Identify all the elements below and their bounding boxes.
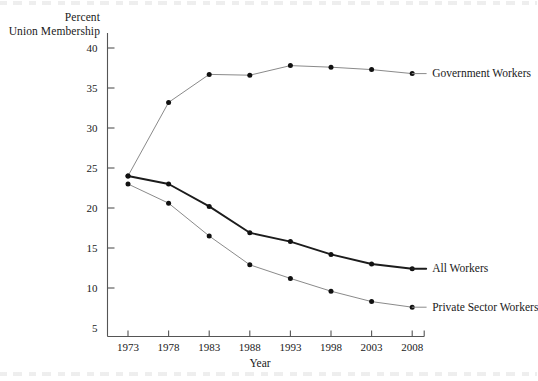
data-point: [369, 262, 374, 267]
x-axis-label: Year: [107, 357, 413, 369]
y-axis-label-line-2: Union Membership: [0, 25, 100, 39]
x-axis-ticks: [128, 331, 424, 337]
series-all-workers: [126, 174, 415, 272]
data-point: [166, 100, 171, 105]
cropped-text-line-below: [0, 372, 537, 376]
series-private-sector-workers: [126, 182, 415, 310]
series-line: [128, 66, 412, 176]
series-label-private-sector-workers: Private Sector Workers: [432, 301, 538, 313]
data-point: [247, 262, 252, 267]
data-point: [329, 65, 334, 70]
y-axis-tick-label: 20: [70, 203, 98, 214]
data-point: [369, 67, 374, 72]
data-point: [288, 63, 293, 68]
series-line: [128, 176, 412, 269]
data-point: [247, 230, 252, 235]
data-point: [166, 201, 171, 206]
y-axis-tick-label: 40: [70, 43, 98, 54]
data-point: [126, 174, 131, 179]
data-point: [329, 252, 334, 257]
series-label-all-workers: All Workers: [432, 262, 488, 274]
data-point: [288, 239, 293, 244]
data-point: [329, 289, 334, 294]
y-axis-tick-label: 10: [70, 283, 98, 294]
y-axis-label: Percent Union Membership: [0, 11, 100, 38]
cropped-text-line-above: [0, 1, 537, 5]
data-point: [207, 234, 212, 239]
data-point: [126, 182, 131, 187]
data-point: [247, 73, 252, 78]
y-axis-tick-label: 25: [70, 163, 98, 174]
series-government-workers: [126, 63, 415, 178]
series-label-government-workers: Government Workers: [432, 67, 531, 79]
data-point: [369, 299, 374, 304]
y-axis-tick-label: 35: [70, 83, 98, 94]
data-point: [166, 182, 171, 187]
series-leader-lines: [412, 74, 426, 308]
y-axis-label-line-1: Percent: [0, 11, 100, 25]
data-point: [288, 276, 293, 281]
y-axis-tick-label: 30: [70, 123, 98, 134]
axis-spines: [108, 33, 425, 337]
data-point: [207, 204, 212, 209]
x-axis-tick-label: 2008: [388, 342, 436, 353]
y-axis-tick-label: 5: [70, 323, 98, 334]
data-point: [207, 72, 212, 77]
y-axis-ticks: [108, 48, 115, 288]
y-axis-tick-label: 15: [70, 243, 98, 254]
